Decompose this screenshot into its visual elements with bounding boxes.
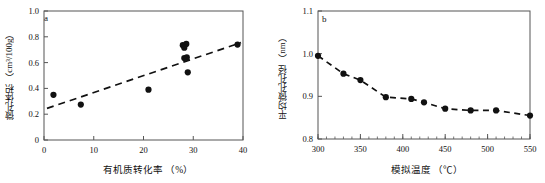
x-tick-label-a: 40 bbox=[239, 145, 248, 155]
x-tick-label-b: 550 bbox=[524, 144, 537, 154]
data-point-a bbox=[145, 87, 151, 93]
data-point-a bbox=[183, 41, 189, 47]
x-tick-label-b: 350 bbox=[354, 144, 367, 154]
data-point-b bbox=[315, 53, 321, 59]
y-tick-label-b: 1.1 bbox=[302, 6, 313, 16]
data-point-a bbox=[50, 92, 56, 98]
data-point-b bbox=[383, 94, 389, 100]
data-point-b bbox=[408, 96, 414, 102]
y-tick-label-a: 0.8 bbox=[28, 32, 39, 42]
data-point-a bbox=[185, 69, 191, 75]
plot-area-b: 0.80.91.01.1300350400450500550 bbox=[272, 0, 545, 183]
x-tick-label-a: 10 bbox=[90, 145, 99, 155]
y-tick-label-b: 1.0 bbox=[302, 49, 313, 59]
x-tick-label-b: 300 bbox=[312, 144, 325, 154]
data-point-a bbox=[234, 41, 240, 47]
data-point-b bbox=[357, 77, 363, 83]
y-tick-label-a: 1.0 bbox=[28, 6, 39, 16]
data-point-b bbox=[340, 71, 346, 77]
data-point-b bbox=[527, 112, 533, 118]
y-tick-label-a: 0.4 bbox=[28, 83, 39, 93]
x-tick-label-a: 0 bbox=[42, 145, 46, 155]
plot-area-a: 00.20.40.60.81.0010203040 bbox=[0, 0, 272, 183]
axes-frame-b bbox=[318, 11, 530, 139]
data-point-b bbox=[468, 107, 474, 113]
data-point-b bbox=[493, 107, 499, 113]
y-tick-label-a: 0.6 bbox=[28, 58, 39, 68]
x-tick-label-a: 30 bbox=[189, 145, 198, 155]
x-tick-label-b: 450 bbox=[439, 144, 452, 154]
x-tick-label-b: 500 bbox=[481, 144, 494, 154]
chart-panel-b: 平均微孔孔径 （nm） 模拟温度 （℃） b 0.80.91.01.130035… bbox=[272, 0, 545, 183]
x-tick-label-a: 20 bbox=[139, 145, 148, 155]
data-point-b bbox=[442, 106, 448, 112]
chart-panel-a: 微孔体积 （cm³/100g） 有机质转化率 （%） a 00.20.40.60… bbox=[0, 0, 272, 183]
data-point-b bbox=[421, 99, 427, 105]
series-line-b bbox=[318, 56, 530, 116]
figure-container: 微孔体积 （cm³/100g） 有机质转化率 （%） a 00.20.40.60… bbox=[0, 0, 545, 183]
x-tick-label-b: 400 bbox=[396, 144, 409, 154]
trendline-a bbox=[47, 43, 241, 109]
data-point-a bbox=[184, 54, 190, 60]
y-tick-label-a: 0.2 bbox=[28, 109, 39, 119]
y-tick-label-b: 0.8 bbox=[302, 134, 313, 144]
y-tick-label-b: 0.9 bbox=[302, 91, 313, 101]
y-tick-label-a: 0 bbox=[35, 135, 39, 145]
data-point-a bbox=[78, 101, 84, 107]
